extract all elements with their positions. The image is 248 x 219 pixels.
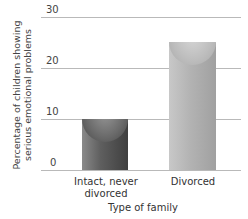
bar-cap-shading	[82, 119, 128, 142]
y-axis-label-line1: Percentage of children showing	[11, 15, 22, 175]
gridline-0	[41, 170, 241, 171]
x-category-intact-line1: Intact, never	[72, 176, 140, 188]
x-category-intact-line2: divorced	[72, 188, 140, 200]
y-tick-30: 30	[46, 4, 59, 15]
y-axis-label-line2: serious emotional problems	[22, 15, 33, 175]
x-axis-title: Type of family	[0, 202, 248, 213]
x-category-divorced: Divorced	[158, 176, 228, 188]
x-category-intact: Intact, never divorced	[72, 176, 140, 200]
y-tick-20: 20	[46, 55, 59, 66]
bar-intact-never-divorced	[82, 119, 128, 170]
y-axis-label: Percentage of children showing serious e…	[11, 15, 33, 175]
bar-chart: 30 20 10 0 Percentage of children showin…	[0, 0, 248, 219]
bar-cap-shading	[169, 42, 216, 65]
gridline-30	[41, 17, 241, 18]
y-tick-10: 10	[46, 106, 59, 117]
y-tick-0: 0	[50, 157, 56, 168]
bar-divorced	[169, 42, 216, 170]
